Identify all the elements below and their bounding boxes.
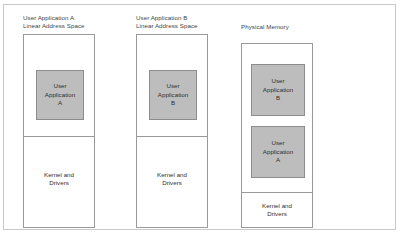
- region-divider-a: [24, 136, 94, 137]
- region-divider-physical: [242, 192, 312, 193]
- column-physical-memory: Physical Memory User Application B User …: [229, 5, 359, 231]
- address-space-box-a: User Application A Kernel and Drivers: [23, 34, 95, 228]
- column-user-application-b: User Application B Linear Address Space …: [117, 5, 237, 231]
- figure-frame: User Application A Linear Address Space …: [3, 4, 396, 230]
- kernel-and-drivers-label-b: Kernel and Drivers: [137, 171, 207, 188]
- app-block-physical-user-application-a: User Application A: [251, 126, 305, 178]
- column-label-physical-memory: Physical Memory: [241, 23, 351, 31]
- kernel-and-drivers-label-a: Kernel and Drivers: [24, 171, 94, 188]
- app-block-physical-user-application-b: User Application B: [251, 64, 305, 116]
- physical-memory-box: User Application B User Application A Ke…: [241, 43, 313, 228]
- app-block-user-application-b: User Application B: [149, 70, 197, 120]
- address-space-box-b: User Application B Kernel and Drivers: [136, 34, 208, 228]
- region-divider-b: [137, 136, 207, 137]
- kernel-and-drivers-label-physical: Kernel and Drivers: [242, 202, 312, 219]
- app-block-user-application-a: User Application A: [36, 70, 84, 120]
- column-user-application-a: User Application A Linear Address Space …: [4, 5, 124, 231]
